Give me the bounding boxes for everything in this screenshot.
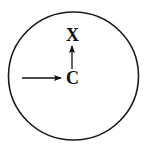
label-c: C <box>66 68 79 88</box>
label-x: X <box>66 25 79 45</box>
circle-diagram: X C <box>0 0 148 150</box>
